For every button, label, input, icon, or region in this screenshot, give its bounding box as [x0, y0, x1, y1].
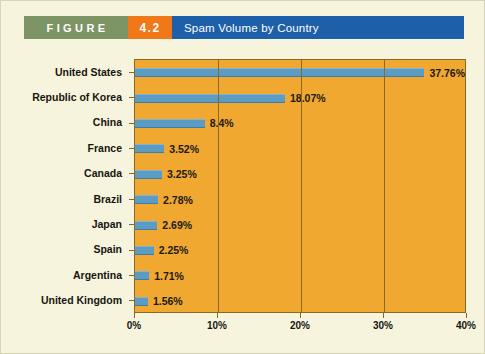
bar: [135, 144, 164, 153]
bar-value-label: 1.71%: [154, 270, 184, 282]
x-axis-tick: [300, 313, 301, 318]
bar-row: 18.07%: [135, 85, 465, 110]
bar-row: 3.52%: [135, 136, 465, 161]
bar-value-label: 8.4%: [210, 117, 234, 129]
bar: [135, 297, 148, 306]
bar-row: 8.4%: [135, 111, 465, 136]
figure-title: Spam Volume by Country: [172, 16, 464, 39]
category-label: Canada: [0, 161, 128, 186]
x-axis-tick-label: 30%: [373, 320, 393, 331]
bar-value-label: 3.52%: [169, 143, 199, 155]
bar: [135, 195, 158, 204]
bar: [135, 68, 424, 77]
bar-row: 2.78%: [135, 187, 465, 212]
x-axis-tick-label: 0%: [127, 320, 141, 331]
figure-page: FIGURE 4.2 Spam Volume by Country United…: [0, 0, 485, 354]
x-axis-tick: [134, 313, 135, 318]
category-label: France: [0, 135, 128, 160]
bar-row: 2.25%: [135, 238, 465, 263]
figure-header: FIGURE 4.2 Spam Volume by Country: [24, 16, 464, 39]
category-label: United Kingdom: [0, 288, 128, 313]
x-axis-tick: [383, 313, 384, 318]
x-axis-tick: [466, 313, 467, 318]
gridline: [218, 60, 219, 312]
bar-value-label: 2.25%: [159, 244, 189, 256]
category-label: Republic of Korea: [0, 84, 128, 109]
x-axis-tick-label: 10%: [207, 320, 227, 331]
bar-value-label: 18.07%: [290, 92, 326, 104]
bar-value-label: 2.78%: [163, 194, 193, 206]
category-label: United States: [0, 59, 128, 84]
category-label: China: [0, 110, 128, 135]
bar-row: 1.71%: [135, 263, 465, 288]
bar-row: 1.56%: [135, 289, 465, 314]
x-axis-tick-label: 40%: [456, 320, 476, 331]
bar-value-label: 37.76%: [429, 67, 465, 79]
bar: [135, 271, 149, 280]
x-axis-tick-label: 20%: [290, 320, 310, 331]
category-label: Brazil: [0, 186, 128, 211]
gridline: [301, 60, 302, 312]
bar: [135, 94, 285, 103]
bar: [135, 119, 205, 128]
bar: [135, 221, 157, 230]
bar-value-label: 2.69%: [162, 219, 192, 231]
category-label: Argentina: [0, 262, 128, 287]
plot-area: 37.76%18.07%8.4%3.52%3.25%2.78%2.69%2.25…: [134, 59, 466, 313]
category-label: Japan: [0, 211, 128, 236]
figure-label: FIGURE: [24, 16, 128, 39]
gridline: [384, 60, 385, 312]
value-axis: 0%10%20%30%40%: [134, 313, 466, 343]
x-axis-tick: [217, 313, 218, 318]
bar: [135, 170, 162, 179]
category-axis: United StatesRepublic of KoreaChinaFranc…: [1, 59, 128, 313]
bar-row: 2.69%: [135, 212, 465, 237]
bar: [135, 246, 154, 255]
bar-value-label: 3.25%: [167, 168, 197, 180]
bar-row: 3.25%: [135, 162, 465, 187]
bar-value-label: 1.56%: [153, 295, 183, 307]
bar-row: 37.76%: [135, 60, 465, 85]
category-label: Spain: [0, 237, 128, 262]
figure-number: 4.2: [128, 16, 172, 39]
bar-rows: 37.76%18.07%8.4%3.52%3.25%2.78%2.69%2.25…: [135, 60, 465, 312]
